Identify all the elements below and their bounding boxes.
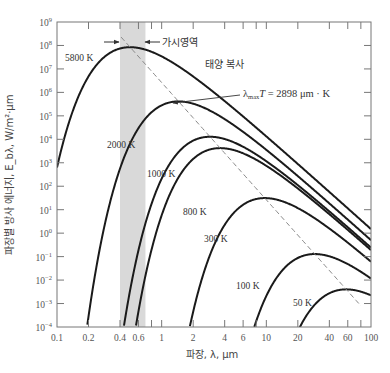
y-tick-label: 10−1 (36, 251, 52, 263)
x-tick-label: 1 (159, 333, 164, 343)
curve-label-5800k: 5800 K (65, 53, 93, 63)
x-tick-label: 0.2 (83, 333, 95, 343)
curve-label-2000k: 2000 K (107, 140, 135, 150)
x-tick-label: 10 (262, 333, 272, 343)
visible-region-label: 가시영역 (162, 37, 198, 48)
x-tick-label: 0.6 (133, 333, 145, 343)
y-tick-label: 101 (39, 204, 52, 216)
wien-label: λmaxT = 2898 μm · K (243, 88, 330, 100)
blackbody-emission-chart: 0.10.20.40.6124610204060100 109108107106… (0, 0, 390, 373)
y-tick-label: 105 (39, 110, 52, 122)
y-tick-label: 104 (39, 133, 53, 145)
y-tick-label: 102 (39, 180, 52, 192)
x-tick-label: 40 (325, 333, 335, 343)
wien-annotation: λmaxT = 2898 μm · K (173, 88, 330, 103)
curve-label-800k: 800 K (183, 207, 207, 217)
wien-sub: max (248, 93, 260, 100)
curve-5800k (57, 47, 371, 229)
wien-rest: = 2898 μm · K (265, 88, 330, 99)
y-axis-title: 파장별 방사 에너지, E_bλ, W/m²·μm (4, 95, 16, 256)
x-tick-label: 0.4 (114, 333, 126, 343)
y-tick-label: 107 (39, 63, 53, 75)
y-tick-label: 103 (39, 157, 52, 169)
x-tick-label: 2 (191, 333, 196, 343)
x-tick-label: 6 (241, 333, 246, 343)
y-tick-label: 10−2 (36, 274, 52, 286)
x-tick-label: 20 (293, 333, 303, 343)
curve-label-50k: 50 K (293, 298, 312, 308)
wien-arrow (173, 95, 240, 103)
x-tick-label: 60 (343, 333, 353, 343)
x-tick-label: 4 (222, 333, 227, 343)
y-tick-label: 109 (39, 16, 52, 28)
x-axis-ticks: 0.10.20.40.6124610204060100 (51, 22, 378, 343)
y-tick-label: 108 (39, 39, 52, 51)
y-tick-label: 10−3 (36, 298, 52, 310)
curve-label-1000k: 1000 K (147, 169, 175, 179)
x-tick-label: 100 (364, 333, 379, 343)
visible-region-annotation: 가시영역 (104, 37, 198, 48)
y-tick-label: 10−4 (36, 321, 53, 333)
curve-label-300k: 300 K (204, 234, 228, 244)
y-tick-label: 100 (39, 227, 52, 239)
y-tick-label: 106 (39, 86, 53, 98)
curve-label-100k: 100 K (236, 281, 260, 291)
x-tick-label: 0.1 (51, 333, 63, 343)
solar-radiation-label: 태양 복사 (205, 59, 244, 70)
y-axis-ticks: 10910810710610510410310210110010−110−210… (36, 16, 371, 333)
x-axis-title: 파장, λ, μm (186, 349, 239, 360)
curve-50k (300, 289, 371, 327)
